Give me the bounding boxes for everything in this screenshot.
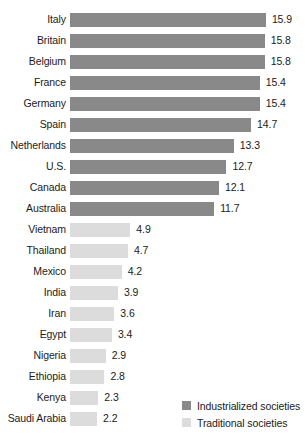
bar-chart: Italy15.9Britain15.8Belgium15.8France15.… — [0, 0, 305, 435]
bar-value-label: 14.7 — [257, 114, 277, 135]
bar-industrialized — [70, 13, 266, 27]
bar-industrialized — [70, 139, 234, 153]
bar-value-label: 2.3 — [104, 387, 118, 408]
bar-row: Britain15.8 — [0, 30, 305, 51]
bar-row: Iran3.6 — [0, 303, 305, 324]
bar-row: India3.9 — [0, 282, 305, 303]
legend-item: Industrialized societies — [182, 398, 302, 413]
bar-row: Nigeria2.9 — [0, 345, 305, 366]
category-label: Britain — [0, 30, 66, 51]
category-label: Belgium — [0, 51, 66, 72]
bar-traditional — [70, 307, 114, 321]
legend-swatch-industrialized — [182, 401, 191, 410]
bar-value-label: 2.2 — [103, 408, 117, 429]
bar-traditional — [70, 391, 98, 405]
category-label: Italy — [0, 9, 66, 30]
bar-value-label: 15.4 — [266, 72, 286, 93]
bar-row: Mexico4.2 — [0, 261, 305, 282]
bar-traditional — [70, 349, 106, 363]
bar-row: Netherlands13.3 — [0, 135, 305, 156]
bar-row: Germany15.4 — [0, 93, 305, 114]
bar-row: Australia11.7 — [0, 198, 305, 219]
bar-value-label: 12.7 — [232, 156, 252, 177]
bar-traditional — [70, 286, 118, 300]
bar-traditional — [70, 265, 122, 279]
bar-value-label: 4.2 — [128, 261, 142, 282]
category-label: U.S. — [0, 156, 66, 177]
bar-industrialized — [70, 160, 226, 174]
bar-value-label: 3.9 — [124, 282, 138, 303]
bar-value-label: 3.4 — [118, 324, 132, 345]
bar-value-label: 15.8 — [271, 30, 291, 51]
bar-row: Spain14.7 — [0, 114, 305, 135]
bar-value-label: 4.9 — [136, 219, 150, 240]
bar-traditional — [70, 244, 128, 258]
bar-value-label: 15.4 — [266, 93, 286, 114]
legend-item: Traditional societies — [182, 415, 302, 430]
category-label: Nigeria — [0, 345, 66, 366]
category-label: Ethiopia — [0, 366, 66, 387]
category-label: Vietnam — [0, 219, 66, 240]
category-label: Mexico — [0, 261, 66, 282]
category-label: Australia — [0, 198, 66, 219]
category-label: Iran — [0, 303, 66, 324]
bar-traditional — [70, 412, 97, 426]
legend-swatch-traditional — [182, 418, 191, 427]
bar-row: U.S.12.7 — [0, 156, 305, 177]
bar-industrialized — [70, 76, 260, 90]
category-label: France — [0, 72, 66, 93]
bar-row: Italy15.9 — [0, 9, 305, 30]
bar-value-label: 3.6 — [120, 303, 134, 324]
category-label: Kenya — [0, 387, 66, 408]
bar-row: Belgium15.8 — [0, 51, 305, 72]
bar-value-label: 15.9 — [272, 9, 292, 30]
bar-value-label: 11.7 — [220, 198, 239, 219]
bar-row: Egypt3.4 — [0, 324, 305, 345]
category-label: Netherlands — [0, 135, 66, 156]
category-label: Germany — [0, 93, 66, 114]
bar-industrialized — [70, 97, 260, 111]
category-label: Canada — [0, 177, 66, 198]
legend-label: Industrialized societies — [197, 400, 300, 412]
category-label: Saudi Arabia — [0, 408, 66, 429]
bar-row: Ethiopia2.8 — [0, 366, 305, 387]
bar-value-label: 2.9 — [112, 345, 126, 366]
category-label: India — [0, 282, 66, 303]
bar-industrialized — [70, 34, 265, 48]
bar-value-label: 2.8 — [110, 366, 124, 387]
bar-industrialized — [70, 202, 214, 216]
bar-row: Vietnam4.9 — [0, 219, 305, 240]
category-label: Egypt — [0, 324, 66, 345]
bar-industrialized — [70, 55, 265, 69]
bar-value-label: 13.3 — [240, 135, 260, 156]
bar-value-label: 15.8 — [271, 51, 291, 72]
bar-traditional — [70, 370, 104, 384]
bar-industrialized — [70, 118, 251, 132]
category-label: Thailand — [0, 240, 66, 261]
bar-traditional — [70, 328, 112, 342]
bar-value-label: 12.1 — [225, 177, 245, 198]
bar-row: Thailand4.7 — [0, 240, 305, 261]
bar-row: France15.4 — [0, 72, 305, 93]
bar-traditional — [70, 223, 130, 237]
category-label: Spain — [0, 114, 66, 135]
bar-industrialized — [70, 181, 219, 195]
bar-value-label: 4.7 — [134, 240, 148, 261]
legend-label: Traditional societies — [197, 417, 287, 429]
bar-row: Canada12.1 — [0, 177, 305, 198]
chart-legend: Industrialized societiesTraditional soci… — [182, 398, 302, 432]
